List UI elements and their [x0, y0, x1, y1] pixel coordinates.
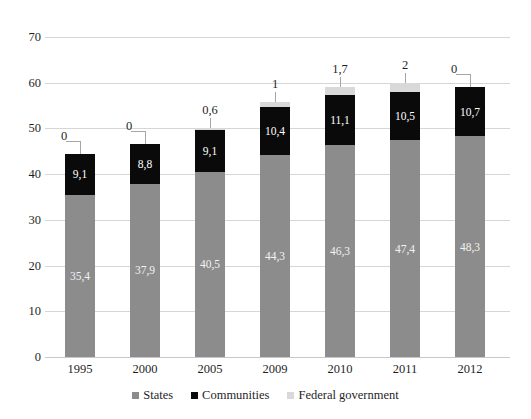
bar-value-label-states: 37,9	[130, 264, 160, 276]
callout-leader-line	[210, 118, 211, 128]
callout-leader-line	[145, 131, 146, 144]
bar-segment-federal[interactable]	[195, 128, 225, 131]
callout-leader-line	[275, 92, 276, 102]
bar-value-label-communities: 10,4	[260, 125, 290, 137]
x-tick-label-2009: 2009	[245, 362, 305, 376]
y-tick-label-50: 50	[1, 122, 41, 134]
federal-value-callout: 1	[255, 78, 295, 91]
x-tick-label-1995: 1995	[50, 362, 110, 376]
x-tick-label-2000: 2000	[115, 362, 175, 376]
legend-swatch-icon	[132, 392, 139, 399]
chart-legend: StatesCommunitiesFederal government	[0, 389, 531, 402]
bar-group[interactable]: 47,410,5	[390, 37, 420, 357]
legend-label: Communities	[202, 389, 269, 402]
bar-value-label-states: 46,3	[325, 245, 355, 257]
bar-value-label-communities: 9,1	[65, 168, 95, 180]
federal-value-callout: 1,7	[320, 63, 360, 76]
y-tick-label-70: 70	[1, 31, 41, 43]
gridline-0	[45, 357, 510, 358]
legend-swatch-icon	[287, 392, 294, 399]
y-tick-label-10: 10	[1, 305, 41, 317]
callout-leader-line	[456, 74, 471, 75]
x-tick-label-2011: 2011	[375, 362, 435, 376]
bar-group[interactable]: 37,98,8	[130, 37, 160, 357]
x-tick-label-2005: 2005	[180, 362, 240, 376]
bar-value-label-communities: 8,8	[130, 158, 160, 170]
y-tick-label-20: 20	[1, 260, 41, 272]
bar-value-label-states: 48,3	[455, 241, 485, 253]
y-tick-label-40: 40	[1, 168, 41, 180]
y-axis: 706050403020100	[0, 0, 41, 419]
legend-swatch-icon	[191, 392, 198, 399]
bar-group[interactable]: 35,49,1	[65, 37, 95, 357]
bar-value-label-communities: 10,5	[390, 110, 420, 122]
callout-leader-line	[470, 74, 471, 87]
callout-leader-line	[131, 131, 146, 132]
x-tick-label-2012: 2012	[440, 362, 500, 376]
y-tick-label-30: 30	[1, 214, 41, 226]
bar-value-label-states: 35,4	[65, 270, 95, 282]
legend-item[interactable]: Communities	[191, 389, 269, 402]
callout-leader-line	[405, 73, 406, 83]
callout-leader-line	[80, 141, 81, 154]
y-tick-label-60: 60	[1, 77, 41, 89]
x-tick-label-2010: 2010	[310, 362, 370, 376]
callout-leader-line	[340, 77, 341, 87]
bar-segment-federal[interactable]	[325, 87, 355, 95]
legend-label: Federal government	[298, 389, 398, 402]
y-tick-label-0: 0	[1, 351, 41, 363]
federal-value-callout: 2	[385, 59, 425, 72]
bar-value-label-states: 47,4	[390, 243, 420, 255]
callout-leader-line	[66, 141, 81, 142]
legend-item[interactable]: States	[132, 389, 173, 402]
bar-value-label-communities: 10,7	[455, 106, 485, 118]
bar-group[interactable]: 40,59,1	[195, 37, 225, 357]
legend-label: States	[143, 389, 173, 402]
bar-segment-federal[interactable]	[260, 102, 290, 107]
bar-value-label-states: 44,3	[260, 250, 290, 262]
bar-value-label-communities: 9,1	[195, 145, 225, 157]
legend-item[interactable]: Federal government	[287, 389, 398, 402]
bar-value-label-communities: 11,1	[325, 114, 355, 126]
bar-segment-federal[interactable]	[390, 83, 420, 92]
federal-value-callout: 0,6	[190, 104, 230, 117]
stacked-bar-chart: 706050403020100 35,49,137,98,840,59,144,…	[0, 0, 531, 419]
bar-value-label-states: 40,5	[195, 258, 225, 270]
